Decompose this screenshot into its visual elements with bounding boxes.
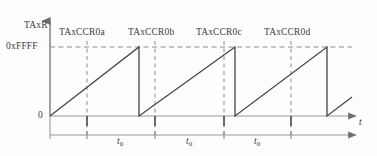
period-label-3: t0 xyxy=(254,136,260,146)
x-axis-label: t xyxy=(359,117,362,127)
timing-diagram-canvas xyxy=(0,0,377,156)
period-label-2-sub: 0 xyxy=(189,140,193,148)
marker-label-taxccr0a: TAxCCR0a xyxy=(59,27,105,37)
figure-background xyxy=(0,0,377,156)
period-label-2: t0 xyxy=(186,136,192,146)
marker-label-taxccr0d: TAxCCR0d xyxy=(264,27,310,37)
marker-label-taxccr0c: TAxCCR0c xyxy=(196,27,242,37)
y-axis-label: TAxR xyxy=(24,20,48,30)
y-tick-label-full-scale: 0xFFFF xyxy=(6,41,38,51)
period-label-3-sub: 0 xyxy=(257,140,261,148)
marker-label-taxccr0b: TAxCCR0b xyxy=(128,27,174,37)
period-label-1: t0 xyxy=(117,136,123,146)
period-label-1-sub: 0 xyxy=(120,140,124,148)
timing-diagram-figure: 上升计数模式时序（顶部裁切文字） xyxy=(0,0,377,156)
y-tick-label-zero: 0 xyxy=(38,110,43,120)
